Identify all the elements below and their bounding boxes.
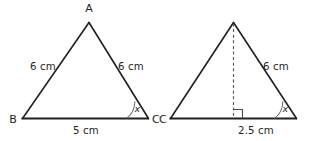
left-triangle-angle-label: x <box>134 103 141 114</box>
left-triangle-side-AC-label: 6 cm <box>118 61 144 72</box>
right-triangle-angle-label: x <box>282 103 289 114</box>
vertex-label-B: B <box>9 113 17 126</box>
geometry-figure-container: A B C 6 cm 6 cm 5 cm x C <box>0 0 310 141</box>
vertex-label-A: A <box>85 2 93 15</box>
left-triangle-base-label: 5 cm <box>73 125 99 136</box>
geometry-figure-svg: A B C 6 cm 6 cm 5 cm x C <box>0 0 310 141</box>
right-triangle-half-base-label: 2.5 cm <box>238 125 274 136</box>
right-triangle-group: C 6 cm 2.5 cm x <box>159 23 297 137</box>
left-triangle-group: A B C 6 cm 6 cm 5 cm x <box>9 2 160 136</box>
right-triangle-side-label: 6 cm <box>263 61 289 72</box>
right-triangle-left-side <box>171 23 234 119</box>
right-triangle-vertex-label-C: C <box>159 113 167 126</box>
left-triangle-side-BA-label: 6 cm <box>30 61 56 72</box>
right-angle-marker-icon <box>234 110 243 119</box>
